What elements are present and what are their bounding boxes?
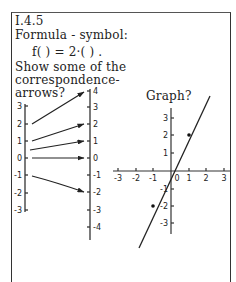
svg-text:-2: -2	[14, 189, 22, 198]
svg-text:1: 1	[163, 149, 168, 158]
left-axis-labels: 3 2 1 0 -1 -2 -3	[14, 102, 22, 215]
svg-text:-2: -2	[132, 174, 140, 183]
svg-text:2: 2	[163, 131, 168, 140]
svg-text:2: 2	[203, 174, 208, 183]
svg-text:4: 4	[93, 87, 98, 96]
svg-text:1: 1	[186, 174, 191, 183]
svg-text:1: 1	[93, 137, 98, 146]
function-line	[139, 96, 210, 248]
point-neg1-neg2	[151, 204, 155, 208]
svg-text:-3: -3	[93, 206, 101, 215]
graph-axes	[113, 108, 231, 234]
right-axis-labels: 4 3 2 1 0 -1 -2 -3 -4	[93, 87, 101, 232]
arrow-neg1-to-neg2	[32, 176, 84, 192]
svg-text:1: 1	[17, 137, 22, 146]
svg-text:0: 0	[17, 154, 22, 163]
svg-text:0: 0	[174, 174, 179, 183]
svg-text:-3: -3	[160, 219, 168, 228]
svg-text:3: 3	[93, 103, 98, 112]
svg-text:-2: -2	[160, 202, 168, 211]
correspondence-arrows	[30, 92, 84, 192]
svg-text:3: 3	[17, 102, 22, 111]
point-1-2	[187, 133, 191, 137]
arrow-1-to-2	[32, 124, 84, 141]
svg-text:-1: -1	[93, 171, 101, 180]
svg-text:-1: -1	[14, 171, 22, 180]
svg-text:-3: -3	[14, 206, 22, 215]
left-number-line	[25, 104, 28, 212]
arrow-2-to-4	[32, 92, 84, 124]
svg-text:3: 3	[163, 114, 168, 123]
svg-text:0: 0	[93, 154, 98, 163]
svg-text:3: 3	[221, 174, 226, 183]
svg-text:-1: -1	[149, 174, 157, 183]
svg-text:-4: -4	[93, 223, 101, 232]
svg-text:2: 2	[93, 120, 98, 129]
svg-text:-3: -3	[114, 174, 122, 183]
svg-text:2: 2	[17, 120, 22, 129]
right-number-line	[87, 89, 90, 240]
svg-text:-2: -2	[93, 188, 101, 197]
arrow-half-to-1	[30, 141, 84, 150]
